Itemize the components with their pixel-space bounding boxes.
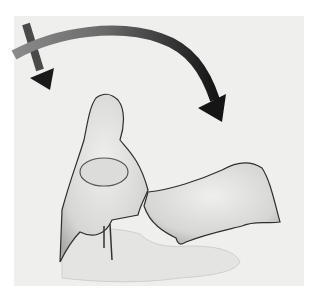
soft-tissue-shadow bbox=[62, 228, 240, 281]
left-bone-condyle bbox=[80, 158, 128, 186]
right-bone bbox=[144, 163, 280, 244]
short-down-arrow-icon bbox=[26, 24, 54, 90]
anatomical-illustration bbox=[0, 0, 317, 302]
